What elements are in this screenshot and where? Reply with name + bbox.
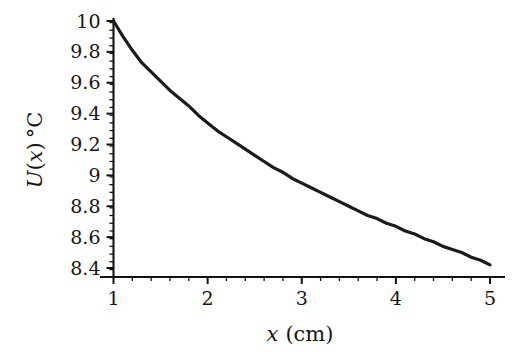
axes-group — [101, 19, 504, 277]
y-tick-label: 9 — [88, 164, 100, 186]
y-tick-label: 8.4 — [70, 257, 100, 279]
x-tick-label: 1 — [107, 287, 119, 309]
x-tick-label: 4 — [390, 287, 402, 309]
y-tick-label: 9.6 — [70, 71, 100, 93]
x-tick-label: 2 — [202, 287, 214, 309]
x-axis-title-variable: x — [267, 322, 279, 346]
figure-container: 8.48.68.899.29.49.69.81012345 x(cm)U(x)°… — [0, 0, 526, 364]
y-tick-label: 8.6 — [70, 226, 100, 248]
ticks-group — [107, 21, 491, 284]
x-tick-label: 5 — [484, 287, 496, 309]
chart-plot: 8.48.68.899.29.49.69.81012345 x(cm)U(x)°… — [0, 0, 526, 364]
y-tick-label: 9.2 — [70, 133, 100, 155]
y-axis-title-function: U — [23, 169, 47, 188]
y-tick-label: 8.8 — [70, 195, 100, 217]
y-axis-title: U(x)°C — [23, 112, 47, 189]
x-axis-title-unit: (cm) — [285, 322, 333, 346]
data-series-curve — [114, 21, 491, 265]
x-tick-label: 3 — [296, 287, 308, 309]
x-axis-title: x(cm) — [267, 322, 334, 346]
y-tick-label: 9.8 — [70, 40, 100, 62]
y-tick-label: 9.4 — [70, 102, 100, 124]
y-axis-title-close-paren: ) — [23, 142, 47, 150]
data-series-group — [114, 21, 491, 265]
y-axis-title-variable: x — [23, 150, 47, 162]
y-axis-title-open-paren: ( — [23, 162, 47, 170]
y-tick-label: 10 — [76, 10, 100, 32]
y-axis-title-unit: °C — [23, 112, 47, 139]
